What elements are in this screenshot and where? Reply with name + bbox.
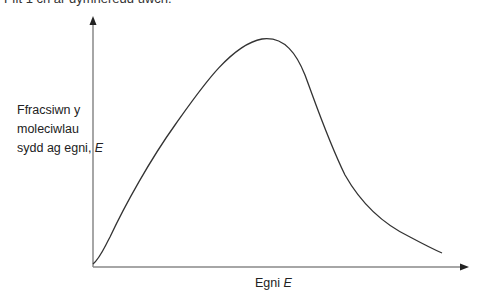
- y-axis-arrow-icon: [90, 16, 97, 25]
- y-label-line-2: moleciwlau: [17, 120, 103, 139]
- y-axis-label: Ffracsiwn y moleciwlau sydd ag egni, E: [17, 101, 103, 158]
- x-axis-label: Egni E: [255, 276, 292, 290]
- distribution-curve: [93, 39, 442, 264]
- y-label-line-1: Ffracsiwn y: [17, 101, 103, 120]
- y-label-variable: E: [95, 141, 103, 155]
- x-axis-arrow-icon: [460, 264, 469, 271]
- x-label-variable: E: [284, 276, 292, 290]
- x-label-text: Egni: [255, 276, 280, 290]
- y-label-line-3: sydd ag egni,: [17, 141, 91, 155]
